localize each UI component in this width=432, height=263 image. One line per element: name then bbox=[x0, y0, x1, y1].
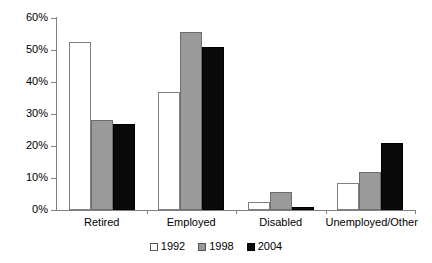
legend-swatch-icon bbox=[198, 243, 206, 251]
x-axis-tick bbox=[415, 210, 416, 214]
legend-item-1998: 1998 bbox=[198, 241, 233, 252]
bar-disabled-1998 bbox=[270, 192, 292, 210]
y-axis-tick bbox=[51, 178, 56, 179]
y-axis-tick bbox=[51, 210, 56, 211]
plot-area bbox=[57, 18, 415, 210]
bar-chart: 0%10%20%30%40%50%60% RetiredEmployedDisa… bbox=[0, 0, 432, 263]
bar-unemployed-other-1998 bbox=[359, 172, 381, 210]
bar-unemployed-other-2004 bbox=[381, 143, 403, 210]
bar-retired-1998 bbox=[91, 120, 113, 210]
y-axis-tick bbox=[51, 114, 56, 115]
y-axis-tick-label: 40% bbox=[4, 76, 48, 87]
bar-employed-1998 bbox=[180, 32, 202, 210]
bar-employed-1992 bbox=[158, 92, 180, 210]
y-axis-tick bbox=[51, 18, 56, 19]
y-axis-tick-label: 30% bbox=[4, 108, 48, 119]
legend-item-2004: 2004 bbox=[247, 241, 282, 252]
bar-employed-2004 bbox=[202, 47, 224, 210]
legend-label: 1998 bbox=[209, 241, 233, 252]
x-axis-category-label: Unemployed/Other bbox=[326, 216, 416, 229]
x-axis-category-label: Retired bbox=[57, 216, 147, 229]
bar-disabled-2004 bbox=[292, 207, 314, 210]
y-axis-tick-label: 20% bbox=[4, 140, 48, 151]
y-axis-tick-label: 60% bbox=[4, 12, 48, 23]
chart-legend: 199219982004 bbox=[0, 241, 432, 252]
legend-label: 2004 bbox=[258, 241, 282, 252]
x-axis-category-label: Disabled bbox=[236, 216, 326, 229]
legend-label: 1992 bbox=[161, 241, 185, 252]
y-axis-tick bbox=[51, 50, 56, 51]
y-axis-tick bbox=[51, 82, 56, 83]
legend-swatch-icon bbox=[150, 243, 158, 251]
y-axis-tick bbox=[51, 146, 56, 147]
bar-retired-2004 bbox=[113, 124, 135, 210]
bar-unemployed-other-1992 bbox=[337, 183, 359, 210]
x-axis-tick bbox=[236, 210, 237, 214]
x-axis-tick bbox=[147, 210, 148, 214]
x-axis-tick bbox=[326, 210, 327, 214]
y-axis-tick-label: 10% bbox=[4, 172, 48, 183]
bar-retired-1992 bbox=[69, 42, 91, 210]
y-axis-tick-label: 0% bbox=[4, 204, 48, 215]
legend-item-1992: 1992 bbox=[150, 241, 185, 252]
legend-swatch-icon bbox=[247, 243, 255, 251]
x-axis-category-label: Employed bbox=[147, 216, 237, 229]
bar-disabled-1992 bbox=[248, 202, 270, 210]
y-axis-tick-label: 50% bbox=[4, 44, 48, 55]
